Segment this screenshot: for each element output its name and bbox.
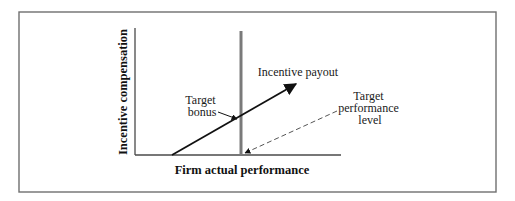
incentive-payout-label: Incentive payout [258,65,339,79]
target-bonus-label: Target bonus [185,93,218,119]
target-performance-label: Target performance level [338,89,402,127]
incentive-diagram: Incentive payout Target bonus Target per… [0,0,515,201]
target-bonus-arrow-icon [218,112,237,119]
target-performance-arrow-icon [245,111,337,153]
x-axis-label: Firm actual performance [175,163,310,177]
y-axis-label: Incentive compensation [116,29,130,155]
